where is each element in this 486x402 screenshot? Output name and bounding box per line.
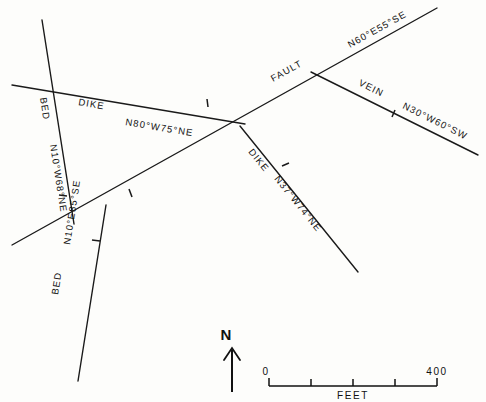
label-vein-type: VEIN <box>357 77 386 99</box>
label-dike-lower-attitude: N37°W74°NE <box>272 173 324 233</box>
dip-tick-dike-upper <box>207 99 208 107</box>
label-dike-upper-type: DIKE <box>78 96 106 111</box>
structure-line-bed-lower <box>78 205 106 381</box>
scale-bar: 0 400 FEET <box>262 366 447 401</box>
label-bed-upper-type: BED <box>38 97 52 121</box>
scale-bar-units-label: FEET <box>337 390 369 401</box>
structure-lines <box>12 8 478 381</box>
scale-bar-start-label: 0 <box>262 366 269 377</box>
structure-line-vein <box>311 72 478 155</box>
geologic-structure-map: DIKE N80°W75°NE BED N10°W68°NE BED N10°E… <box>0 0 486 402</box>
north-arrow-letter: N <box>221 326 232 343</box>
label-vein-attitude: N30°W60°SW <box>401 100 469 141</box>
label-bed-lower-type: BED <box>49 271 63 295</box>
north-arrow: N <box>221 326 240 392</box>
label-dike-upper-attitude: N80°W75°NE <box>125 116 195 138</box>
scale-bar-end-label: 400 <box>426 366 448 377</box>
dip-tick-dike-lower <box>282 163 289 166</box>
map-canvas: DIKE N80°W75°NE BED N10°W68°NE BED N10°E… <box>0 0 486 402</box>
dip-tick-fault <box>129 189 132 197</box>
label-fault-type: FAULT <box>269 57 304 83</box>
dip-tick-bed-lower <box>92 240 100 241</box>
structure-labels: DIKE N80°W75°NE BED N10°W68°NE BED N10°E… <box>38 8 469 295</box>
